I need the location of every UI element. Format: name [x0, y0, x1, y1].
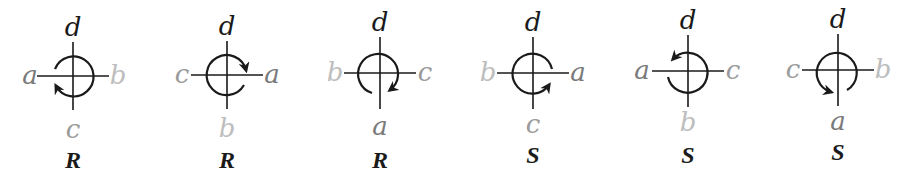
diagram-6: d c b a S [786, 4, 892, 165]
label-bottom: c [66, 114, 81, 144]
label-right: c [726, 55, 741, 85]
label-bottom: b [219, 113, 236, 143]
label-right: b [875, 54, 892, 84]
label-right: c [418, 57, 433, 87]
configuration-caption: R [64, 147, 81, 173]
configuration-caption: S [681, 142, 694, 168]
label-left: b [327, 57, 344, 87]
label-top: d [219, 11, 236, 41]
label-right: a [570, 57, 586, 87]
chirality-diagrams-figure: d a b c R d c a b R d b c a R d b a c S [0, 0, 913, 188]
label-left: b [480, 57, 497, 87]
label-top: d [830, 4, 847, 34]
label-left: c [786, 54, 801, 84]
label-top: d [372, 7, 389, 37]
rotation-arrow-icon [817, 53, 857, 92]
label-bottom: b [680, 107, 697, 137]
diagram-1: d a b c R [22, 12, 126, 173]
configuration-caption: R [371, 147, 388, 173]
configuration-caption: S [831, 139, 844, 165]
diagram-5: d a c b S [634, 5, 740, 168]
configuration-caption: S [526, 142, 539, 168]
configuration-caption: R [218, 147, 235, 173]
label-top: d [680, 5, 697, 35]
diagram-3: d b c a R [327, 7, 433, 173]
label-top: d [525, 7, 542, 37]
diagram-2: d c a b R [175, 11, 280, 173]
diagram-4: d b a c S [480, 7, 586, 168]
label-bottom: c [526, 109, 541, 139]
label-left: a [634, 55, 650, 85]
label-right: b [110, 60, 127, 90]
label-bottom: a [372, 111, 388, 141]
label-left: c [175, 59, 190, 89]
label-bottom: a [830, 106, 846, 136]
label-top: d [65, 12, 82, 42]
label-left: a [22, 60, 38, 90]
label-right: a [264, 59, 280, 89]
